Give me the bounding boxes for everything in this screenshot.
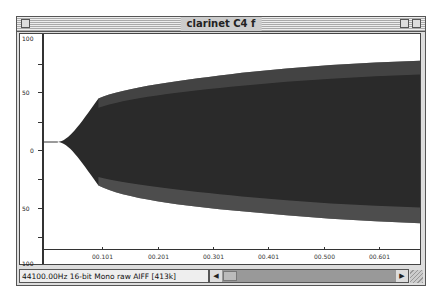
time-label: 00.201 xyxy=(148,253,169,260)
ruler-label: 50 xyxy=(22,205,30,212)
amplitude-ruler: 100 50 0 50 100 xyxy=(20,34,44,264)
zoom-box-icon[interactable] xyxy=(400,19,409,28)
ruler-label: 0 xyxy=(30,147,34,154)
waveform[interactable] xyxy=(44,34,420,250)
waveform-graphic xyxy=(44,34,420,250)
waveform-view[interactable]: 100 50 0 50 100 00.101 00.201 00.301 00.… xyxy=(19,33,421,265)
ruler-label: 50 xyxy=(22,89,30,96)
ruler-label: 100 xyxy=(22,35,33,42)
ruler-label: 100 xyxy=(22,260,33,267)
time-label: 00.500 xyxy=(314,253,335,260)
window-title: clarinet C4 f xyxy=(181,17,262,31)
resize-grip-icon[interactable] xyxy=(410,270,423,283)
scroll-left-arrow-icon[interactable]: ◀ xyxy=(210,270,222,282)
title-bar[interactable]: clarinet C4 f xyxy=(17,17,425,32)
time-ruler: 00.101 00.201 00.301 00.401 00.500 00.60… xyxy=(44,249,420,264)
time-label: 00.101 xyxy=(92,253,113,260)
collapse-box-icon[interactable] xyxy=(412,19,421,28)
time-label: 00.301 xyxy=(203,253,224,260)
sound-window: clarinet C4 f 100 50 0 50 100 00.101 00.… xyxy=(16,16,426,286)
horizontal-scrollbar[interactable]: ◀ ▶ xyxy=(209,269,409,283)
scroll-thumb[interactable] xyxy=(223,271,237,281)
scroll-right-arrow-icon[interactable]: ▶ xyxy=(396,270,408,282)
time-label: 00.401 xyxy=(258,253,279,260)
time-label: 00.601 xyxy=(369,253,390,260)
close-box-icon[interactable] xyxy=(21,19,30,28)
format-status: 44100.00Hz 16-bit Mono raw AIFF [413k] xyxy=(19,269,209,283)
